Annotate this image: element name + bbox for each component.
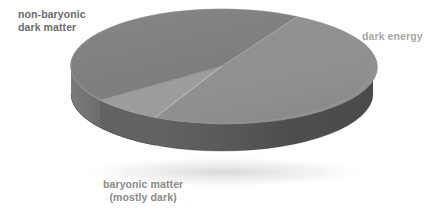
label-baryonic-line2: (mostly dark) bbox=[103, 191, 183, 204]
label-dark-energy: dark energy bbox=[362, 30, 423, 43]
label-non-baryonic-line2: dark matter bbox=[18, 21, 76, 33]
label-baryonic-line1: baryonic matter bbox=[103, 178, 183, 190]
label-dark-energy-text: dark energy bbox=[362, 30, 423, 42]
label-non-baryonic-line1: non-baryonic bbox=[18, 8, 86, 20]
label-baryonic-matter: baryonic matter (mostly dark) bbox=[103, 178, 183, 205]
pie-chart-figure: non-baryonic dark matter dark energy bar… bbox=[0, 0, 446, 214]
top-face-sheen bbox=[71, 9, 373, 123]
label-non-baryonic-dark-matter: non-baryonic dark matter bbox=[18, 8, 86, 35]
